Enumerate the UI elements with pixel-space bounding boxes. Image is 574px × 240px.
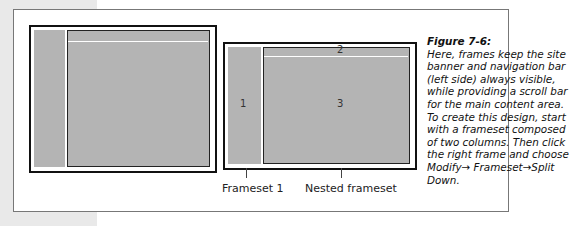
- right-frame: [67, 30, 210, 167]
- figure-caption: Figure 7-6: Here, frames keep the site b…: [427, 35, 572, 186]
- split-line: [68, 41, 208, 42]
- split-line: [264, 56, 408, 57]
- diagram-before: [29, 25, 217, 173]
- frame-2-label: 2: [337, 44, 343, 55]
- nested-pointer: [341, 168, 342, 178]
- frame-1-label: 1: [240, 98, 246, 109]
- frameset1-label: Frameset 1: [222, 182, 284, 195]
- left-frame: [34, 30, 65, 167]
- frame-3-label: 3: [337, 98, 343, 109]
- figure-number: Figure 7-6:: [427, 35, 572, 48]
- caption-text: Here, frames keep the site banner and na…: [427, 48, 569, 186]
- diagram-after: 1 2 3: [223, 42, 417, 170]
- nested-frameset-label: Nested frameset: [305, 182, 397, 195]
- frameset1-pointer: [246, 168, 247, 178]
